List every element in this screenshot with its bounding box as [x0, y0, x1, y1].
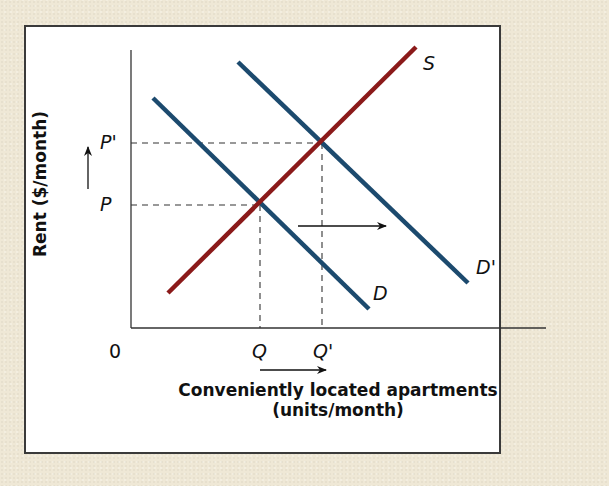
tick-p-prime: P': [100, 131, 117, 153]
x-axis-title: Conveniently located apartments (units/m…: [178, 380, 497, 420]
label-d-prime: D': [476, 256, 496, 278]
x-axis-title-line2: (units/month): [178, 400, 497, 420]
label-d: D: [373, 282, 388, 304]
tick-q: Q: [252, 340, 267, 362]
y-axis-title: Rent ($/month): [30, 111, 50, 257]
supply-curve-s: [168, 47, 416, 293]
tick-q-prime: Q': [313, 340, 333, 362]
demand-curve-d-prime: [238, 62, 468, 283]
label-s: S: [423, 52, 435, 74]
tick-p: P: [100, 193, 111, 215]
tick-origin: 0: [109, 340, 121, 362]
x-axis-title-line1: Conveniently located apartments: [178, 380, 497, 400]
